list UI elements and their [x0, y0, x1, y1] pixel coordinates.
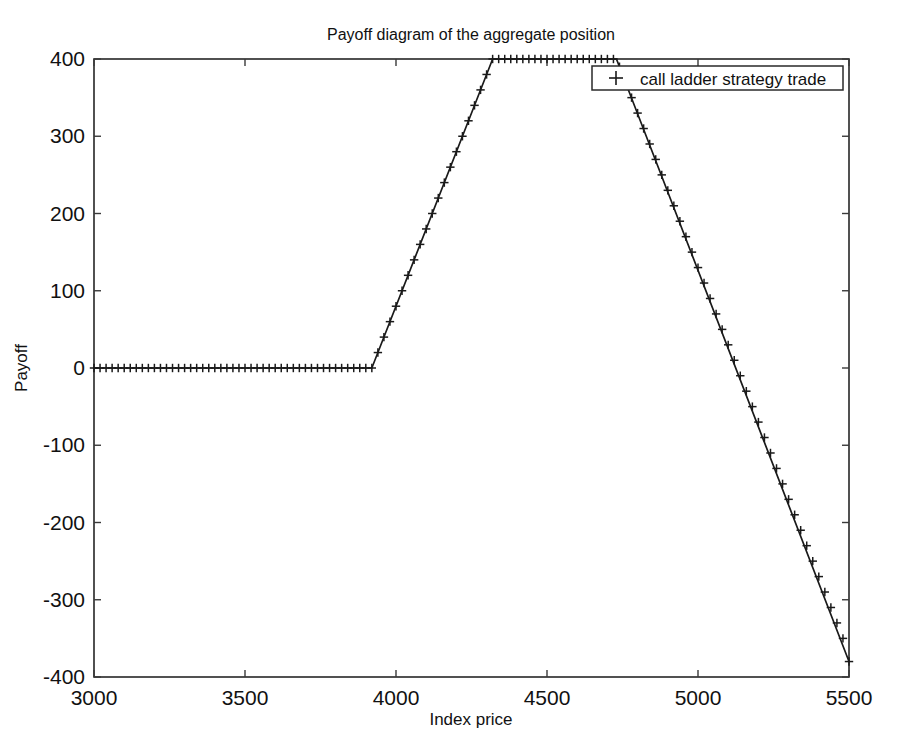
y-tick-label: 300	[50, 124, 85, 147]
x-tick-label: 3000	[71, 686, 118, 709]
x-tick-label: 5500	[826, 686, 873, 709]
y-tick-label: 100	[50, 279, 85, 302]
chart-legend[interactable]: call ladder strategy trade	[592, 66, 843, 90]
series-markers	[90, 55, 853, 666]
x-tick-label: 3500	[222, 686, 269, 709]
y-tick-label: -100	[43, 433, 85, 456]
y-tick-label: -300	[43, 588, 85, 611]
payoff-chart-figure: Payoff diagram of the aggregate position…	[0, 0, 900, 745]
chart-canvas: Payoff diagram of the aggregate position…	[0, 0, 900, 745]
y-axis-title: Payoff	[12, 344, 31, 392]
x-tick-label: 5000	[675, 686, 722, 709]
x-tick-label: 4000	[373, 686, 420, 709]
data-series-call-ladder	[90, 55, 853, 666]
chart-title: Payoff diagram of the aggregate position	[327, 26, 615, 43]
x-axis-title: Index price	[429, 710, 512, 729]
x-axis-ticks: 300035004000450050005500	[71, 59, 873, 709]
x-tick-label: 4500	[524, 686, 571, 709]
legend-entry-label: call ladder strategy trade	[640, 70, 826, 89]
y-tick-label: 400	[50, 47, 85, 70]
y-tick-label: 0	[73, 356, 85, 379]
y-tick-label: 200	[50, 202, 85, 225]
y-tick-label: -400	[43, 665, 85, 688]
y-tick-label: -200	[43, 511, 85, 534]
